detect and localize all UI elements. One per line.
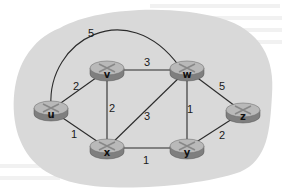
- edge-cost-w-z: 5: [219, 80, 225, 92]
- edge-cost-x-y: 1: [143, 154, 149, 166]
- edge-cost-u-x: 1: [71, 128, 77, 140]
- router-label-x: x: [104, 147, 111, 158]
- router-label-v: v: [104, 69, 111, 80]
- router-node-y[interactable]: y: [170, 139, 204, 159]
- router-label-w: w: [182, 69, 191, 80]
- router-node-u[interactable]: u: [34, 101, 68, 121]
- router-node-v[interactable]: v: [90, 61, 124, 81]
- edge-cost-w-y: 1: [187, 103, 193, 115]
- router-label-y: y: [184, 147, 191, 158]
- router-label-z: z: [240, 111, 246, 122]
- router-label-u: u: [47, 109, 54, 120]
- network-diagram: 5235231112 uvwxyz: [0, 0, 285, 193]
- edge-cost-u-v: 2: [73, 80, 79, 92]
- router-node-x[interactable]: x: [90, 139, 124, 159]
- edge-cost-v-x: 2: [109, 102, 115, 114]
- edge-cost-u-w: 5: [88, 27, 94, 39]
- edge-cost-y-z: 2: [219, 129, 225, 141]
- edge-cost-x-w: 3: [144, 110, 150, 122]
- router-node-z[interactable]: z: [226, 103, 260, 123]
- edge-cost-v-w: 3: [144, 56, 150, 68]
- router-node-w[interactable]: w: [170, 61, 204, 81]
